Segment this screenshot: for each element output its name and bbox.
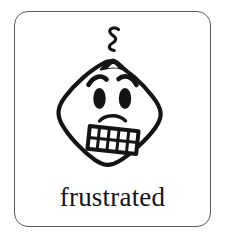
caption-label: frustrated xyxy=(14,182,211,212)
eye-right-icon xyxy=(119,88,131,109)
gritted-teeth-mouth-icon xyxy=(87,126,138,154)
steam-squiggle-icon xyxy=(109,28,118,51)
eye-left-icon xyxy=(93,88,105,109)
